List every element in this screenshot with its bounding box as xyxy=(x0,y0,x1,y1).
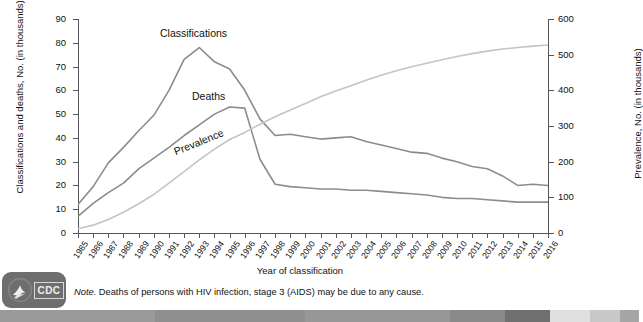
x-tick xyxy=(548,234,549,238)
x-tick-label: 1999 xyxy=(283,239,302,260)
y-tick-label-left: 10 xyxy=(40,203,66,214)
x-tick xyxy=(366,234,367,238)
bottom-banner xyxy=(0,310,639,322)
y-tick-right xyxy=(549,126,554,127)
x-tick-label: 2008 xyxy=(420,239,439,260)
x-tick-label: 1996 xyxy=(238,239,257,260)
x-tick-label: 1994 xyxy=(207,239,226,260)
series-line-deaths xyxy=(78,107,548,216)
y-tick-label-left: 0 xyxy=(40,227,66,238)
x-tick-label: 1986 xyxy=(86,239,105,260)
plot-area xyxy=(78,19,548,233)
x-tick xyxy=(154,234,155,238)
x-tick-label: 2015 xyxy=(526,239,545,260)
x-tick xyxy=(260,234,261,238)
x-tick-label: 1990 xyxy=(147,239,166,260)
y-tick-label-left: 50 xyxy=(40,108,66,119)
x-tick-label: 2016 xyxy=(541,239,560,260)
footer-note-text: Deaths of persons with HIV infection, st… xyxy=(96,287,424,297)
x-tick xyxy=(427,234,428,238)
y-tick-label-left: 80 xyxy=(40,37,66,48)
x-tick xyxy=(245,234,246,238)
x-tick-label: 2012 xyxy=(480,239,499,260)
y-tick-right xyxy=(549,55,554,56)
footer-note-prefix: Note. xyxy=(74,287,96,297)
banner-segment xyxy=(450,310,505,322)
x-tick xyxy=(351,234,352,238)
x-tick-label: 1989 xyxy=(132,239,151,260)
x-tick-label: 1991 xyxy=(162,239,181,260)
y-tick-right xyxy=(549,233,554,234)
x-tick xyxy=(336,234,337,238)
y-tick-label-right: 400 xyxy=(558,84,584,95)
x-tick xyxy=(93,234,94,238)
series-label-classifications: Classifications xyxy=(160,27,227,39)
x-tick xyxy=(472,234,473,238)
y-tick-label-left: 90 xyxy=(40,13,66,24)
x-tick-label: 1987 xyxy=(101,239,120,260)
y-axis-right-title: Prevalence, No. (in thousands) xyxy=(632,34,643,194)
banner-segment xyxy=(155,310,305,322)
series-label-deaths: Deaths xyxy=(192,90,225,102)
y-tick-right xyxy=(549,197,554,198)
x-tick-label: 2013 xyxy=(496,239,515,260)
x-tick-label: 2007 xyxy=(405,239,424,260)
x-tick-label: 2003 xyxy=(344,239,363,260)
y-axis-left-title: Classifications and deaths, No. (in thou… xyxy=(14,34,25,194)
y-tick-label-right: 300 xyxy=(558,120,584,131)
x-tick-label: 2009 xyxy=(435,239,454,260)
x-tick-label: 1998 xyxy=(268,239,287,260)
x-tick-label: 2014 xyxy=(511,239,530,260)
y-tick-label-left: 40 xyxy=(40,132,66,143)
x-tick xyxy=(139,234,140,238)
hhs-eagle-icon xyxy=(7,277,33,303)
x-tick-label: 2010 xyxy=(450,239,469,260)
x-tick xyxy=(412,234,413,238)
x-tick xyxy=(290,234,291,238)
x-tick-label: 2011 xyxy=(466,239,485,260)
banner-segment xyxy=(305,310,450,322)
x-tick xyxy=(503,234,504,238)
cdc-logo: CDC xyxy=(2,272,66,308)
y-tick-label-left: 20 xyxy=(40,179,66,190)
x-tick xyxy=(518,234,519,238)
x-tick xyxy=(78,234,79,238)
x-axis-title: Year of classification xyxy=(190,265,410,276)
x-tick xyxy=(275,234,276,238)
x-tick-label: 1988 xyxy=(116,239,135,260)
y-tick-label-left: 30 xyxy=(40,156,66,167)
x-tick-label: 2006 xyxy=(389,239,408,260)
series-line-classifications xyxy=(78,48,548,205)
x-tick xyxy=(184,234,185,238)
y-tick-label-right: 100 xyxy=(558,191,584,202)
x-tick-label: 1993 xyxy=(192,239,211,260)
x-tick-label: 1985 xyxy=(71,239,90,260)
footer-note: Note. Deaths of persons with HIV infecti… xyxy=(74,287,424,297)
x-tick xyxy=(487,234,488,238)
x-tick xyxy=(442,234,443,238)
x-tick xyxy=(199,234,200,238)
y-tick-label-right: 600 xyxy=(558,13,584,24)
x-tick xyxy=(321,234,322,238)
x-tick xyxy=(230,234,231,238)
y-tick-right xyxy=(549,19,554,20)
series-line-prevalence xyxy=(78,45,548,229)
banner-segment xyxy=(550,310,590,322)
y-tick-label-left: 60 xyxy=(40,84,66,95)
y-tick-label-right: 200 xyxy=(558,156,584,167)
y-tick-right xyxy=(549,90,554,91)
x-tick xyxy=(396,234,397,238)
x-tick xyxy=(214,234,215,238)
y-tick-label-right: 0 xyxy=(558,227,584,238)
banner-segment xyxy=(590,310,620,322)
x-tick-label: 2002 xyxy=(329,239,348,260)
banner-segment xyxy=(505,310,550,322)
x-tick-label: 2005 xyxy=(374,239,393,260)
y-tick-label-left: 70 xyxy=(40,61,66,72)
x-tick xyxy=(123,234,124,238)
banner-segment xyxy=(0,310,155,322)
x-tick-label: 1995 xyxy=(223,239,242,260)
x-tick xyxy=(305,234,306,238)
x-tick-label: 2001 xyxy=(314,239,333,260)
